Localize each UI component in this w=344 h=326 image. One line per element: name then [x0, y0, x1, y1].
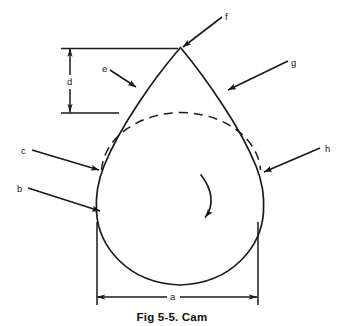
callout-label-b: b	[17, 184, 22, 194]
dimension-label-a: a	[170, 292, 175, 302]
callout-leader-h	[264, 148, 320, 172]
callout-leader-f	[183, 17, 222, 47]
callout-leader-c	[32, 150, 99, 170]
base-circle-hidden-arc	[102, 113, 261, 171]
figure-cam: b c e f g h a d Fig 5-5. Cam	[0, 0, 344, 326]
callout-label-e: e	[102, 64, 107, 74]
callout-leader-g	[228, 61, 288, 90]
callout-leader-b	[28, 188, 100, 211]
dimension-d-group	[61, 49, 178, 114]
figure-caption: Fig 5-5. Cam	[0, 311, 344, 323]
callout-label-h: h	[325, 144, 330, 154]
callout-leader-lines	[28, 17, 320, 211]
dimension-label-d: d	[67, 77, 72, 87]
callout-leader-e	[110, 70, 136, 87]
callout-label-f: f	[225, 12, 228, 22]
rotation-direction-arrow	[201, 175, 211, 217]
callout-label-g: g	[291, 58, 296, 68]
cam-profile-outline	[96, 48, 263, 286]
callout-label-c: c	[21, 146, 26, 156]
cam-diagram-svg	[0, 0, 344, 326]
